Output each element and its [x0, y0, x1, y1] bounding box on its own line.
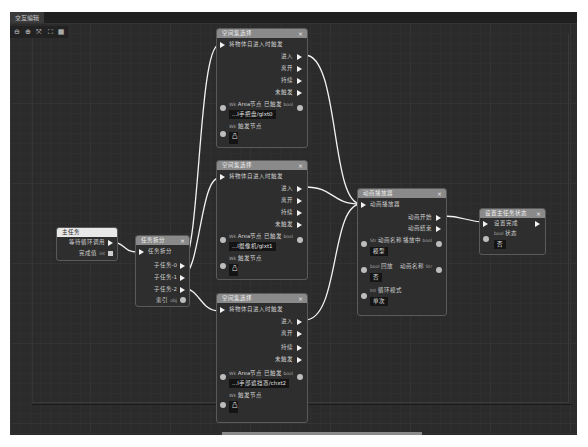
output-not-triggered: 未触发 — [275, 221, 293, 228]
exec-out-pin[interactable] — [436, 226, 441, 232]
trigger-node-field[interactable]: 凸 — [229, 264, 238, 276]
exec-out-pin[interactable] — [297, 66, 302, 72]
output-stay: 持续 — [281, 344, 293, 351]
output-anim-start: 动画开始 — [408, 214, 432, 221]
close-icon[interactable]: × — [180, 236, 185, 245]
close-icon[interactable]: × — [298, 294, 303, 303]
node-title: 动画播放器× — [358, 189, 446, 198]
area-label: Wk Area节点 — [229, 233, 262, 240]
node-space-select-a[interactable]: 空间集选择× 将物体自进入时触发 进入 离开 持续 未触发 Wk Area节点 … — [216, 28, 308, 148]
exec-in-pin[interactable] — [139, 249, 144, 255]
replay-label: bool 回放 — [370, 263, 393, 270]
output-anim-end: 动画结束 — [408, 225, 432, 232]
input-label: 将物体自进入时触发 — [229, 41, 283, 48]
data-in-pin[interactable] — [220, 237, 226, 243]
exec-out-pin[interactable] — [108, 240, 113, 246]
exec-in-pin[interactable] — [220, 42, 225, 48]
exec-out-pin[interactable] — [297, 345, 302, 351]
exec-out-pin[interactable] — [535, 221, 540, 227]
data-out-pin[interactable] — [297, 105, 303, 111]
data-in-pin[interactable] — [220, 263, 226, 269]
data-in-pin[interactable] — [483, 236, 489, 242]
triggered-label: 已触发 bool — [264, 370, 293, 377]
data-out-pin[interactable] — [108, 251, 113, 256]
exec-out-pin[interactable] — [297, 54, 302, 60]
data-in-pin[interactable] — [361, 293, 367, 299]
exec-in-pin[interactable] — [483, 221, 488, 227]
exec-out-pin[interactable] — [297, 210, 302, 216]
node-task-split[interactable]: 任务拆分× 任务拆分 子任务-0 子任务-1 子任务-2 索引 obj — [135, 235, 190, 307]
data-in-pin[interactable] — [220, 402, 226, 408]
exec-out-pin[interactable] — [297, 357, 302, 363]
path-field[interactable]: ...l手把盘/glxt0 — [229, 110, 276, 119]
exec-out-pin[interactable] — [297, 198, 302, 204]
close-icon[interactable]: × — [298, 29, 303, 38]
close-icon[interactable]: × — [437, 189, 442, 198]
path-field[interactable]: ...l手部遮挡罩/chxt2 — [229, 379, 289, 388]
exec-out-pin[interactable] — [180, 275, 185, 281]
anim-name-out-label: 动画名称 Str — [400, 263, 432, 270]
data-in-pin[interactable] — [220, 105, 226, 111]
data-in-pin[interactable] — [361, 267, 367, 273]
exec-out-pin[interactable] — [297, 90, 302, 96]
output-not-triggered: 未触发 — [275, 356, 293, 363]
exec-out-pin[interactable] — [180, 263, 185, 269]
trigger-node-field[interactable]: 凸 — [229, 401, 238, 413]
node-main-task[interactable]: 主任务 等待循环调用 完成值 int — [56, 227, 118, 261]
triggered-label: 已触发 bool — [264, 101, 293, 108]
zoom-out-icon[interactable]: ⊖ — [13, 28, 21, 36]
data-out-pin[interactable] — [297, 374, 303, 380]
input-label: 将物体自进入时触发 — [229, 306, 283, 313]
output-stay: 持续 — [281, 209, 293, 216]
exec-out-pin[interactable] — [297, 331, 302, 337]
data-out-pin[interactable] — [180, 297, 186, 303]
node-space-select-b[interactable]: 空间集选择× 将物体自进入时触发 进入 离开 持续 未触发 Wk Area节点 … — [216, 160, 308, 280]
close-icon[interactable]: × — [298, 161, 303, 170]
editor-tab[interactable]: 交互编辑 — [10, 12, 44, 23]
grid-toggle-icon[interactable]: ▦ — [57, 28, 65, 36]
close-icon[interactable]: × — [536, 209, 541, 218]
loop-mode-field[interactable]: 单次 — [370, 297, 388, 306]
triggered-label: 已触发 bool — [264, 233, 293, 240]
data-out-pin[interactable] — [436, 241, 442, 247]
data-in-pin[interactable] — [220, 131, 226, 137]
input-label: 动画播放器 — [370, 201, 400, 208]
area-label: Wk Area节点 — [229, 370, 262, 377]
node-set-task-state[interactable]: 设置主任务状态× 设置完成 bool 状态 否 — [479, 208, 546, 255]
data-out-pin[interactable] — [297, 237, 303, 243]
zoom-in-icon[interactable]: ⊕ — [24, 28, 32, 36]
node-title: 主任务 — [57, 228, 117, 237]
state-field[interactable]: 否 — [494, 240, 506, 249]
data-in-pin[interactable] — [220, 374, 226, 380]
node-animation-player[interactable]: 动画播放器× 动画播放器 动画开始 动画结束 Str 动画名称 播放中 bool… — [357, 188, 447, 316]
output-label: 等待循环调用 — [69, 239, 105, 246]
fullscreen-icon[interactable]: ⛶ — [46, 28, 54, 36]
node-title: 任务拆分× — [136, 236, 189, 245]
anim-name-field[interactable]: 模型 — [370, 247, 388, 256]
trigger-node-field[interactable]: 凸 — [229, 132, 238, 144]
data-out-pin[interactable] — [436, 267, 442, 273]
output-label: 子任务-1 — [154, 274, 177, 281]
node-title: 设置主任务状态× — [480, 209, 545, 218]
exec-out-pin[interactable] — [436, 215, 441, 221]
replay-field[interactable]: 否 — [370, 273, 382, 282]
exec-out-pin[interactable] — [297, 319, 302, 325]
exec-in-pin[interactable] — [361, 202, 366, 208]
output-stay: 持续 — [281, 77, 293, 84]
exec-out-pin[interactable] — [297, 222, 302, 228]
data-in-pin[interactable] — [361, 241, 367, 247]
exec-in-pin[interactable] — [220, 174, 225, 180]
state-label: bool 状态 — [494, 230, 517, 237]
exec-out-pin[interactable] — [180, 287, 185, 293]
path-field[interactable]: ...l摄像机/glxt1 — [229, 242, 276, 251]
loop-mode-label: Int 循环模式 — [370, 287, 402, 294]
output-label: 完成值 int — [79, 250, 105, 257]
exec-out-pin[interactable] — [297, 78, 302, 84]
exec-in-pin[interactable] — [220, 307, 225, 313]
fit-view-icon[interactable]: ⤧ — [35, 28, 43, 36]
output-enter: 进入 — [281, 185, 293, 192]
output-leave: 离开 — [281, 197, 293, 204]
exec-out-pin[interactable] — [297, 186, 302, 192]
horizontal-scrollbar[interactable] — [222, 432, 422, 435]
node-space-select-c[interactable]: 空间集选择× 将物体自进入时触发 进入 离开 持续 未触发 Wk Area节点 … — [216, 293, 308, 423]
